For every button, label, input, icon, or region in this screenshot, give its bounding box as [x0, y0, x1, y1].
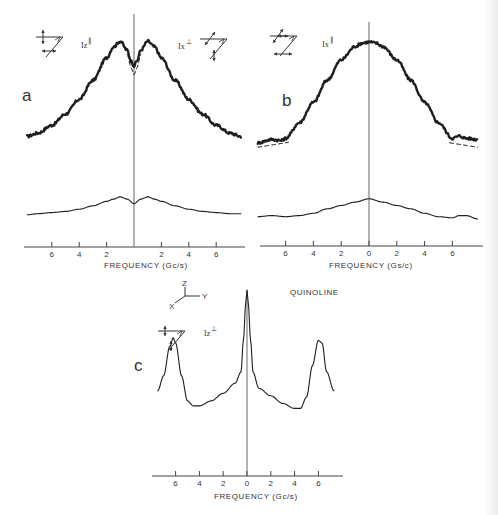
x-tick-label: 4: [422, 249, 426, 258]
spectrum-curve: [258, 199, 478, 219]
axis-label-y: Y: [202, 292, 207, 301]
x-tick-label: 6: [450, 249, 454, 258]
x-tick-label: 2: [395, 249, 399, 258]
x-tick-label: 4: [311, 249, 315, 258]
polarization-label-iz-parallel: Iz∥: [81, 37, 92, 50]
page-edge-shadow: [484, 0, 498, 515]
x-tick-label: 6: [214, 250, 218, 259]
x-tick-label: 6: [316, 479, 320, 488]
polarization-label-ix-parallel: Ix∥: [322, 36, 334, 49]
x-tick-label: 6: [173, 479, 177, 488]
spectrum-curve: [158, 290, 334, 408]
x-axis-label-a: FREQUENCY (Gc/s): [104, 261, 188, 270]
coordinate-axes-icon: [175, 287, 200, 303]
axis-label-z: Z: [182, 279, 187, 288]
polarization-geometry-icon-ix-parallel: [270, 29, 297, 56]
polarization-label-iz-perp: Iz⊥: [204, 325, 217, 338]
panel-letter-c: c: [134, 356, 143, 376]
x-tick-label: 2: [104, 250, 108, 259]
x-axis-label-c: FREQUENCY (Gc/s): [214, 492, 298, 501]
polarization-label-ix-perp: Ix⊥: [178, 38, 192, 51]
x-tick-label: 6: [50, 250, 54, 259]
x-tick-label: 4: [77, 250, 81, 259]
polarization-geometry-icon-ix-perp: [200, 32, 227, 61]
polarization-geometry-icon-iz-parallel: [36, 30, 63, 57]
x-tick-label: 0: [245, 479, 249, 488]
x-tick-label: 4: [292, 479, 296, 488]
x-tick-label: 6: [283, 249, 287, 258]
panel-letter-b: b: [282, 91, 291, 111]
x-tick-label: 2: [339, 249, 343, 258]
polarization-icons: [36, 29, 297, 351]
x-tick-label: 4: [187, 250, 191, 259]
panel-letter-a: a: [22, 86, 31, 106]
x-tick-label: 0: [367, 249, 371, 258]
panel-b-plot: [258, 22, 483, 246]
x-tick-label: 2: [159, 250, 163, 259]
dashed-fit-curve: [450, 143, 478, 147]
compound-name: QUINOLINE: [290, 288, 339, 297]
x-tick-label: 2: [269, 479, 273, 488]
axis-label-x: X: [169, 302, 174, 311]
polarization-geometry-icon-iz-perp: [158, 326, 185, 351]
x-axis-label-b: FREQUENCY (Gs/c): [329, 261, 413, 270]
x-tick-label: 4: [197, 479, 201, 488]
panel-a-plot: [24, 14, 245, 247]
x-tick-label: 2: [221, 479, 225, 488]
panel-c-plot: [152, 290, 343, 476]
